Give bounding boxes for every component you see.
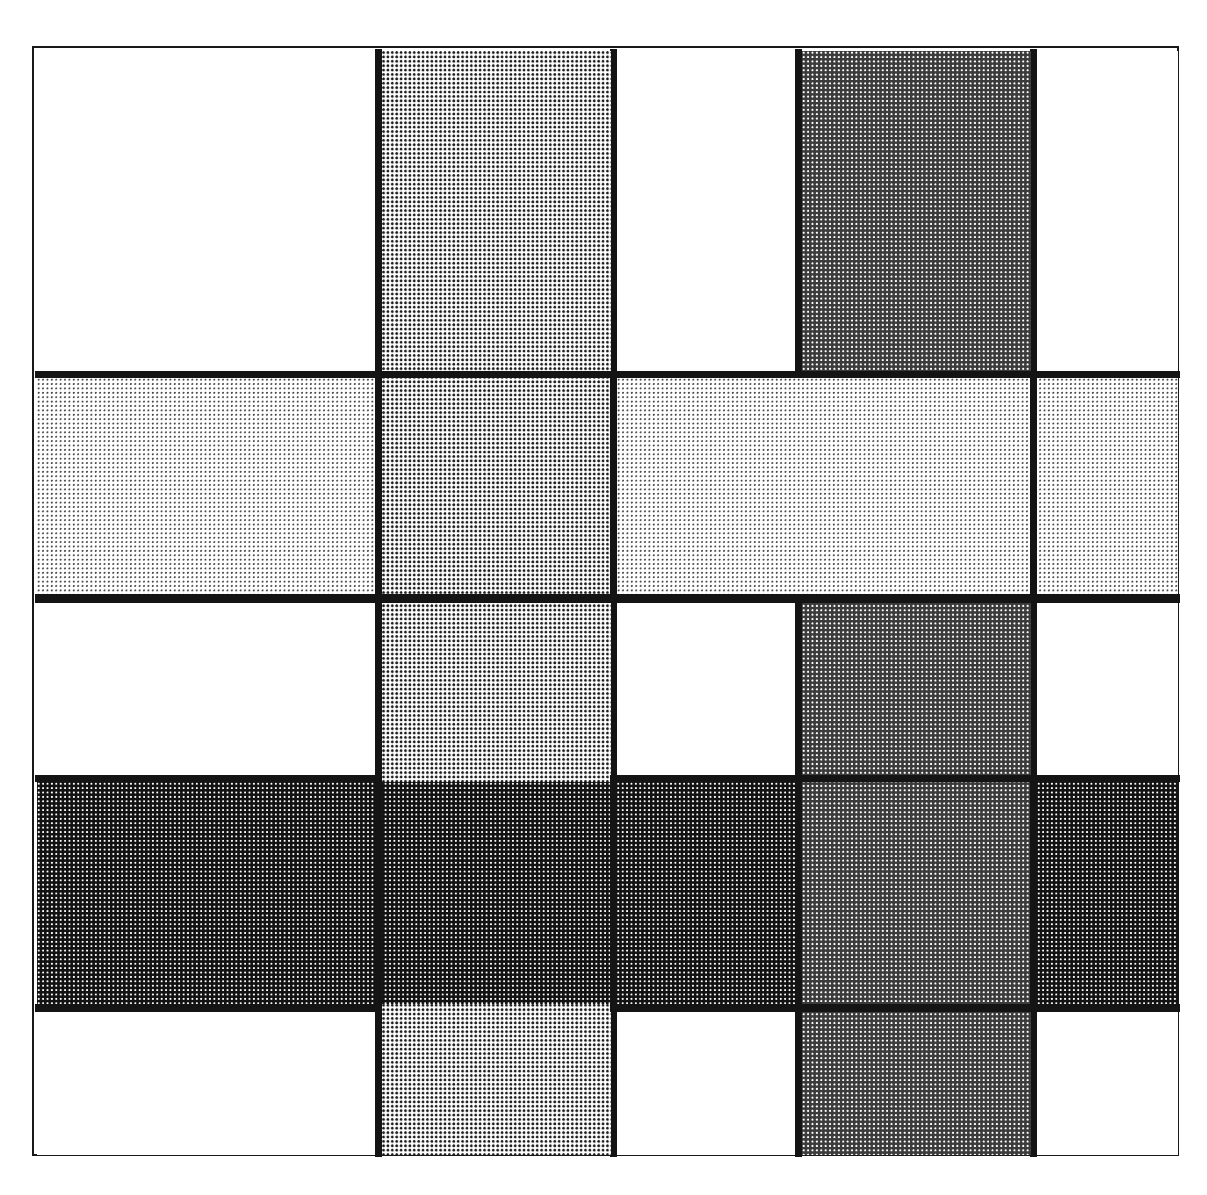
continuous-band-1 — [802, 51, 1031, 1155]
tonal-tile-t-r5c3 — [617, 1012, 796, 1155]
overlay-keyline-0 — [35, 371, 615, 378]
overlay-keyline-8 — [375, 775, 382, 1012]
overlay-keyline-9 — [610, 775, 617, 1012]
tonal-tile-t-r3c1 — [37, 603, 376, 775]
plate-border — [32, 46, 1179, 1156]
overlay-keyline-10 — [1030, 775, 1037, 1012]
tonal-tile-t-r5c1 — [37, 1012, 376, 1155]
overlay-keyline-6 — [610, 371, 617, 603]
overlay-keyline-3 — [795, 594, 1037, 603]
tonal-tile-t-r1c1 — [37, 51, 376, 371]
continuous-band-3 — [37, 782, 796, 1004]
tonal-tile-t-r3c3 — [617, 603, 796, 775]
tonal-tile-t-r3c5 — [1037, 603, 1178, 775]
continuous-band-2 — [617, 378, 1178, 594]
figure-stage — [0, 0, 1207, 1195]
overlay-keyline-2 — [795, 371, 1037, 378]
tonal-tile-t-r1c3 — [617, 51, 796, 371]
overlay-keyline-5 — [795, 1004, 1180, 1012]
tonal-tile-t-r5c5 — [1037, 1012, 1178, 1155]
overlay-keyline-1 — [35, 594, 615, 603]
tonal-tile-t-r2c1 — [37, 378, 376, 594]
tonal-tile-t-r1c5 — [1037, 51, 1178, 371]
keyline-k-v3 — [795, 49, 802, 1157]
overlay-keyline-4 — [795, 775, 1180, 782]
overlay-keyline-7 — [1030, 371, 1037, 603]
tonal-tile-t-r4c5 — [1037, 782, 1178, 1004]
